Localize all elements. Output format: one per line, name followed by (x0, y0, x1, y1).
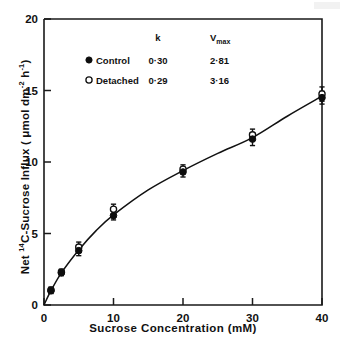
x-axis-title-text: Sucrose Concentration (mM) (89, 322, 257, 334)
legend-vmax-detached: 3·16 (210, 75, 229, 86)
legend-label-control: Control (96, 55, 130, 66)
data-point-control (180, 169, 187, 176)
legend-header-vmax: Vmax (210, 32, 230, 45)
data-point-detached (110, 206, 116, 212)
y-axis-title-mid: C-Sucrose Influx ( (19, 138, 31, 243)
y-tick-label-0: 0 (32, 299, 38, 311)
y-axis-hour-exponent: -1 (17, 64, 26, 71)
y-axis-dm-exponent: -2 (17, 81, 26, 88)
y-axis-units-umol: μmol dm (19, 88, 31, 137)
sucrose-influx-chart: 0 5 10 15 20 0 10 20 30 40 k (0, 0, 346, 346)
y-axis-isotope-superscript: 14 (17, 243, 26, 252)
y-axis-title-suffix: ) (19, 60, 31, 64)
data-point-control (110, 212, 117, 219)
legend-k-detached: 0·29 (148, 75, 167, 86)
x-axis-ticks (44, 298, 322, 305)
data-point-control (319, 94, 326, 101)
y-axis-title-prefix: Net (19, 252, 31, 275)
y-axis-ticks (44, 19, 51, 305)
legend-marker-control (86, 57, 92, 63)
y-axis-title: Net 14C-Sucrose Influx ( μmol dm-2 h-1) (17, 17, 31, 317)
data-point-control (58, 270, 65, 277)
data-point-control (249, 136, 256, 143)
data-point-control (75, 247, 82, 254)
legend-k-control: 0·30 (148, 55, 167, 66)
legend-label-detached: Detached (96, 75, 139, 86)
fit-curve (44, 96, 322, 305)
legend-vmax-control: 2·81 (210, 55, 230, 66)
data-markers-layer (48, 91, 326, 294)
plot-frame (44, 19, 322, 305)
y-tick-label-5: 5 (32, 228, 39, 240)
legend-header-k: k (155, 32, 161, 43)
data-point-control (48, 287, 55, 294)
y-axis-units-hour: h (19, 71, 31, 82)
legend: k Vmax Control 0·30 2·81 Detached 0·29 3… (86, 32, 231, 86)
x-axis-title: Sucrose Concentration (mM) (0, 322, 346, 334)
figure-container: 0 5 10 15 20 0 10 20 30 40 k (0, 0, 346, 346)
legend-marker-detached (86, 77, 92, 83)
